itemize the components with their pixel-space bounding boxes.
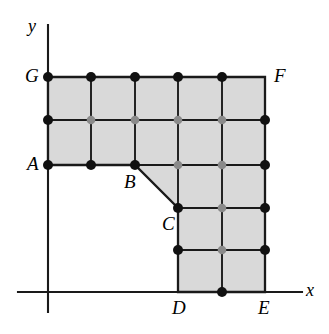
vertex-label-a: A	[27, 154, 39, 173]
shaded-region	[48, 77, 265, 292]
figure-canvas	[0, 0, 329, 334]
vertex-label-g: G	[25, 66, 39, 85]
x-axis-label: x	[306, 281, 314, 299]
lattice-point-boundary	[43, 160, 53, 170]
lattice-point-interior	[218, 204, 227, 213]
lattice-point-interior	[218, 161, 227, 170]
lattice-point-boundary	[173, 245, 183, 255]
polygon-fill	[48, 77, 265, 292]
vertex-label-c: C	[162, 214, 175, 233]
lattice-point-boundary	[260, 160, 270, 170]
vertex-label-d: D	[172, 298, 186, 317]
geometry-figure: ABCDEFG x y	[0, 0, 329, 334]
lattice-point-boundary	[86, 72, 96, 82]
lattice-point-boundary	[43, 115, 53, 125]
lattice-point-interior	[131, 116, 140, 125]
lattice-point-interior	[87, 116, 96, 125]
vertex-label-f: F	[274, 66, 286, 85]
lattice-point-boundary	[260, 115, 270, 125]
lattice-point-interior	[218, 116, 227, 125]
lattice-point-boundary	[173, 203, 183, 213]
lattice-point-boundary	[217, 287, 227, 297]
lattice-point-interior	[174, 116, 183, 125]
lattice-point-interior	[174, 161, 183, 170]
lattice-point-boundary	[260, 203, 270, 213]
lattice-point-boundary	[260, 245, 270, 255]
lattice-point-boundary	[130, 72, 140, 82]
lattice-point-interior	[218, 246, 227, 255]
lattice-point-boundary	[43, 72, 53, 82]
y-axis-label: y	[28, 17, 36, 35]
lattice-point-boundary	[86, 160, 96, 170]
lattice-point-boundary	[173, 72, 183, 82]
lattice-point-boundary	[217, 72, 227, 82]
lattice-point-boundary	[130, 160, 140, 170]
vertex-label-b: B	[124, 172, 136, 191]
vertex-label-e: E	[258, 298, 270, 317]
